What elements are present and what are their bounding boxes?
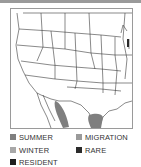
legend-winter: WINTER — [10, 145, 49, 155]
migration-swatch-icon — [76, 134, 82, 140]
legend-label: MIGRATION — [85, 133, 128, 142]
legend-label: RARE — [85, 146, 106, 155]
resident-swatch-icon — [10, 159, 16, 165]
rare-swatch-icon — [76, 147, 82, 153]
us-states-map — [11, 9, 132, 128]
summer-range — [55, 101, 69, 128]
legend-label: SUMMER — [19, 133, 53, 142]
legend-migration: MIGRATION — [76, 132, 128, 142]
range-map — [10, 8, 133, 129]
legend-resident: RESIDENT — [10, 157, 58, 167]
top-bar — [0, 0, 141, 3]
rare-spot — [127, 39, 129, 47]
legend-rare: RARE — [76, 145, 106, 155]
winter-swatch-icon — [10, 147, 16, 153]
summer-swatch-icon — [10, 134, 16, 140]
legend-label: RESIDENT — [19, 158, 58, 167]
legend-label: WINTER — [19, 146, 49, 155]
legend-summer: SUMMER — [10, 132, 53, 142]
summer-range-texas — [88, 114, 103, 128]
